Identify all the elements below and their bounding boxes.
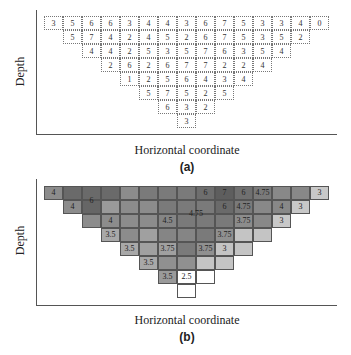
grid-cell: 4 [272,44,291,58]
region-label: 4.75 [256,188,270,197]
region-label: 6 [90,196,94,205]
grid-cell: 7 [177,58,196,72]
region-label: 6 [242,188,246,197]
grid-cell: 3 [272,16,291,30]
shaded-cell [177,284,196,298]
x-axis [36,305,337,306]
grid-cell: 7 [158,86,177,100]
grid-cell: 5 [177,44,196,58]
region-label: 3 [318,188,322,197]
grid-cell: 2 [234,58,253,72]
grid-cell: 3 [158,44,177,58]
region-label: 4.75 [237,202,251,211]
shaded-cell [158,256,177,270]
grid-cell: 7 [82,30,101,44]
panel-caption: (a) [0,160,351,174]
shaded-cell [120,186,139,200]
shaded-cell [158,228,177,242]
shaded-cell [158,200,177,214]
grid-cell: 2 [120,44,139,58]
shaded-cell [196,270,215,284]
grid-cell: 5 [139,44,158,58]
grid-cell: 6 [196,30,215,44]
shaded-cell [196,228,215,242]
shaded-cell [177,228,196,242]
grid-cell: 4 [101,30,120,44]
grid-cell: 0 [310,16,329,30]
grid-cell: 4 [139,30,158,44]
shaded-cell [120,228,139,242]
region-label: 2.5 [182,272,192,281]
grid-cell: 3 [120,16,139,30]
region-label: 3.75 [237,216,251,225]
grid-cell: 6 [158,100,177,114]
shaded-cell [139,186,158,200]
shaded-cell [253,214,272,228]
grid-cell: 2 [215,58,234,72]
region-label: 4 [71,202,75,211]
panel-caption: (b) [0,330,351,344]
grid-cell: 1 [120,72,139,86]
grid-cell: 6 [215,44,234,58]
grid-cell: 3 [177,100,196,114]
shaded-cell [139,200,158,214]
grid-cell: 5 [158,30,177,44]
grid-cell: 3 [215,72,234,86]
grid-cell: 3 [253,16,272,30]
grid-cell: 4 [291,16,310,30]
grid-cell: 2 [120,30,139,44]
region-label: 6 [204,188,208,197]
grid-cell: 6 [82,16,101,30]
region-label: 6 [223,202,227,211]
region-label: 7 [223,188,227,197]
shaded-cell [82,214,101,228]
grid-cell: 5 [177,86,196,100]
region-label: 3.5 [163,272,173,281]
grid-cell: 5 [253,44,272,58]
grid-cell: 7 [215,16,234,30]
shaded-cell [234,228,253,242]
grid-cell: 4 [158,16,177,30]
grid-cell: 2 [196,100,215,114]
x-axis-label: Horizontal coordinate [0,313,351,328]
shaded-cell [234,242,253,256]
shaded-cell [215,256,234,270]
grid-cell: 4 [253,58,272,72]
grid-cell: 7 [215,30,234,44]
grid-cell: 2 [177,30,196,44]
y-axis [36,179,37,305]
shaded-cell [196,256,215,270]
grid-cell: 4 [82,44,101,58]
panel-a: Depth 3566344367533405742452675352442535… [0,0,351,175]
x-axis-label: Horizontal coordinate [0,143,351,158]
y-axis [36,10,37,134]
region-label: 4 [280,202,284,211]
grid-cell: 3 [177,114,196,128]
grid-cell: 6 [120,58,139,72]
grid-cell: 6 [158,58,177,72]
shaded-cell [139,228,158,242]
grid-cell: 3 [44,16,63,30]
region-label: 3.5 [125,244,135,253]
grid-cell: 5 [139,86,158,100]
shaded-cell [101,186,120,200]
grid-cell: 4 [196,72,215,86]
grid-cell: 6 [196,16,215,30]
grid-cell: 5 [234,30,253,44]
region-label: 4.75 [189,209,203,218]
region-label: 3.75 [218,230,232,239]
region-label: 3.5 [144,258,154,267]
shaded-cell [120,214,139,228]
shaded-cell [215,214,234,228]
shaded-cell [291,186,310,200]
grid-cell: 6 [177,72,196,86]
grid-cell: 2 [196,86,215,100]
y-axis-label: Depth [13,226,28,255]
region-label: 4 [109,216,113,225]
shaded-cell [139,214,158,228]
shaded-cell [139,242,158,256]
region-label: 3.75 [199,244,213,253]
grid-cell: 5 [63,16,82,30]
grid-cell: 5 [63,30,82,44]
y-axis-label: Depth [13,57,28,86]
